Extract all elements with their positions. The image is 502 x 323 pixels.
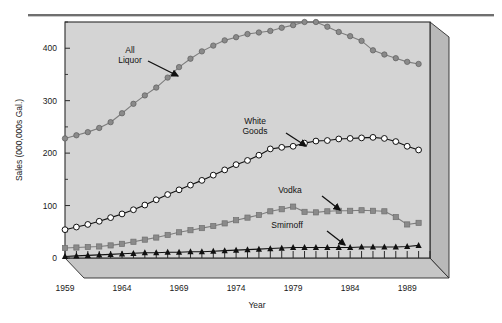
data-point <box>188 182 194 188</box>
data-point <box>359 208 364 213</box>
data-point <box>154 85 159 90</box>
data-point <box>279 25 284 30</box>
data-point <box>74 245 79 250</box>
x-axis-title: Year <box>248 300 265 310</box>
data-point <box>302 209 307 214</box>
data-point <box>211 223 216 228</box>
data-point <box>119 111 124 116</box>
data-point <box>256 152 262 158</box>
data-point <box>325 24 330 29</box>
data-point <box>336 136 342 142</box>
data-point <box>336 29 341 34</box>
data-point <box>370 48 375 53</box>
data-point <box>131 101 136 106</box>
data-point <box>416 220 421 225</box>
data-point <box>97 125 102 130</box>
x-tick-label: 1964 <box>113 283 132 293</box>
x-tick-label: 1979 <box>284 283 303 293</box>
data-point <box>393 214 398 219</box>
data-point <box>222 221 227 226</box>
annotation-label: All <box>125 45 135 55</box>
data-point <box>393 139 399 145</box>
data-point <box>74 133 79 138</box>
data-point <box>176 64 181 69</box>
data-point <box>268 209 273 214</box>
data-point <box>108 215 114 221</box>
data-point <box>199 226 204 231</box>
data-point <box>313 210 318 215</box>
annotation-label: Smirnoff <box>271 220 303 230</box>
data-point <box>267 146 273 152</box>
x-tick-label: 1974 <box>227 283 246 293</box>
annotation-label: Goods <box>242 126 267 136</box>
data-point <box>416 147 422 153</box>
data-point <box>97 244 102 249</box>
data-point <box>62 136 67 141</box>
data-point <box>245 31 250 36</box>
x-tick-label: 1989 <box>398 283 417 293</box>
data-point <box>119 211 125 217</box>
data-point <box>245 215 250 220</box>
data-point <box>256 212 261 217</box>
data-point <box>85 222 91 228</box>
data-point <box>62 245 67 250</box>
x-tick-label: 1984 <box>341 283 360 293</box>
data-point <box>348 208 353 213</box>
data-point <box>165 232 170 237</box>
data-point <box>119 241 124 246</box>
data-point <box>233 218 238 223</box>
data-point <box>325 209 330 214</box>
data-point <box>382 52 387 57</box>
data-point <box>405 222 410 227</box>
base-panel-3d <box>65 258 449 278</box>
data-point <box>279 207 284 212</box>
data-point <box>324 138 330 144</box>
data-point <box>347 33 352 38</box>
data-point <box>404 59 409 64</box>
data-point <box>290 22 295 27</box>
data-point <box>347 136 353 142</box>
data-point <box>210 172 216 178</box>
data-point <box>279 144 285 150</box>
data-point <box>416 61 421 66</box>
data-point <box>370 208 375 213</box>
data-point <box>404 143 410 149</box>
data-point <box>211 43 216 48</box>
data-point <box>370 134 376 140</box>
data-point <box>165 75 170 80</box>
data-point <box>108 119 113 124</box>
y-tick-label: 0 <box>52 253 57 263</box>
line-chart: 0100200300400 19591964196919741979198419… <box>0 0 502 323</box>
data-point <box>188 228 193 233</box>
data-point <box>291 204 296 209</box>
data-point <box>96 218 102 224</box>
data-point <box>108 243 113 248</box>
data-point <box>154 235 159 240</box>
side-panel-3d <box>430 22 449 278</box>
data-point <box>176 230 181 235</box>
data-point <box>176 187 182 193</box>
data-point <box>233 162 239 168</box>
data-point <box>74 224 80 230</box>
data-point <box>313 138 319 144</box>
data-point <box>131 207 137 213</box>
y-tick-label: 300 <box>43 96 57 106</box>
data-point <box>142 202 148 208</box>
data-point <box>142 93 147 98</box>
annotation-label: Vodka <box>278 185 302 195</box>
data-point <box>142 237 147 242</box>
data-point <box>268 28 273 33</box>
data-point <box>302 19 307 24</box>
data-point <box>165 192 171 198</box>
data-point <box>85 129 90 134</box>
data-point <box>313 19 318 24</box>
x-tick-label: 1969 <box>170 283 189 293</box>
data-point <box>222 167 228 173</box>
data-point <box>290 143 296 149</box>
data-point <box>222 38 227 43</box>
data-point <box>233 35 238 40</box>
data-point <box>62 227 68 233</box>
data-point <box>199 177 205 183</box>
data-point <box>393 55 398 60</box>
data-point <box>256 30 261 35</box>
